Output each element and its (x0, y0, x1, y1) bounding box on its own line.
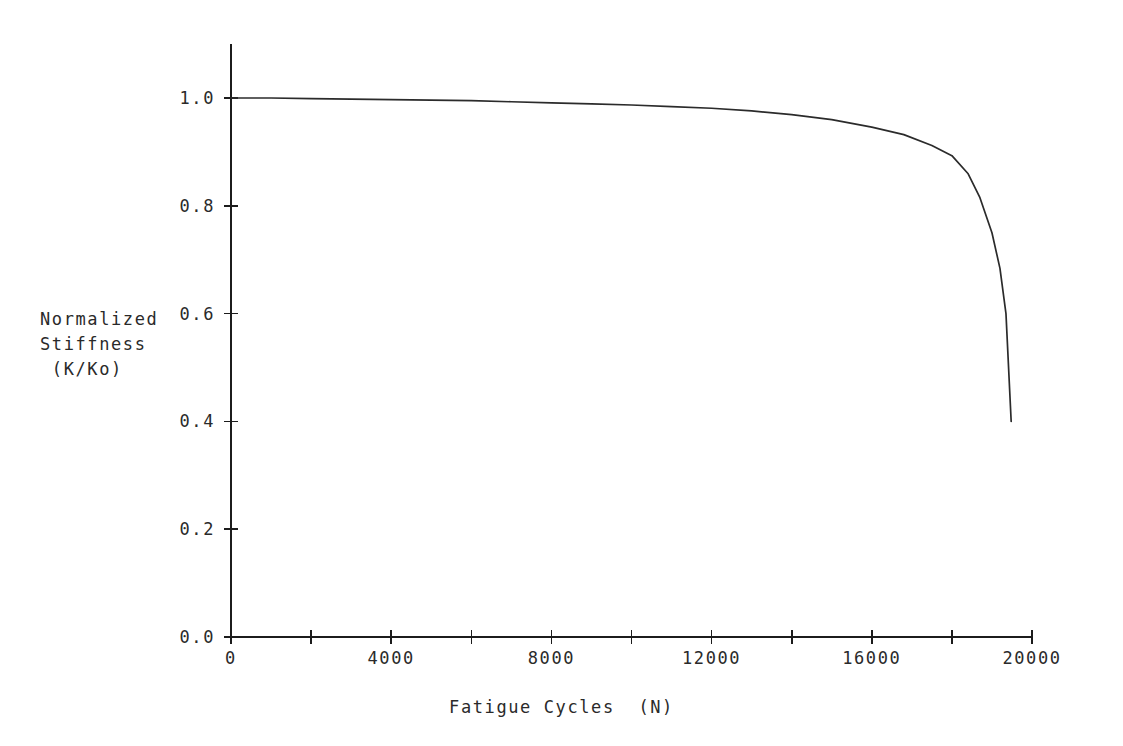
x-tick-label: 4000 (368, 648, 415, 668)
x-axis-title: Fatigue Cycles (N) (0, 697, 1123, 717)
y-axis-title: NormalizedStiffness (K/Ko) (40, 307, 158, 382)
y-tick-label: 0.4 (179, 411, 215, 431)
x-tick-label: 20000 (1002, 648, 1061, 668)
y-tick-label: 0.8 (179, 196, 215, 216)
x-tick-label: 8000 (528, 648, 575, 668)
chart-figure: 040008000120001600020000 0.00.20.40.60.8… (0, 0, 1123, 746)
y-tick-label: 0.2 (179, 519, 215, 539)
y-axis-title-line: Stiffness (40, 332, 158, 357)
x-tick-label: 16000 (842, 648, 901, 668)
y-tick-label: 0.6 (179, 304, 215, 324)
y-axis-title-line: Normalized (40, 307, 158, 332)
data-series-line (231, 98, 1011, 421)
axes (231, 44, 1032, 637)
y-tick-label: 1.0 (179, 88, 215, 108)
x-tick-label: 0 (225, 648, 237, 668)
plot-area (0, 0, 1123, 746)
y-axis-title-line: (K/Ko) (40, 357, 158, 382)
x-tick-label: 12000 (682, 648, 741, 668)
y-tick-label: 0.0 (179, 627, 215, 647)
